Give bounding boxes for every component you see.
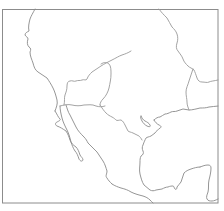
interior-region-boundary — [64, 51, 131, 105]
texas-east-boundary — [186, 69, 193, 110]
northeast-boundary — [159, 9, 218, 82]
interior-region-boundary-east — [100, 63, 111, 106]
gulf-of-mexico-coast — [140, 120, 200, 191]
rio-grande — [100, 105, 142, 140]
outline-map — [0, 0, 224, 211]
northeast-gulf-coast — [154, 106, 218, 120]
pacific-coast-north — [25, 9, 57, 111]
baja-california-peninsula — [55, 106, 83, 161]
laguna-madre-inlet — [141, 116, 151, 127]
map-frame — [3, 10, 219, 204]
yucatan-peninsula — [200, 165, 218, 201]
